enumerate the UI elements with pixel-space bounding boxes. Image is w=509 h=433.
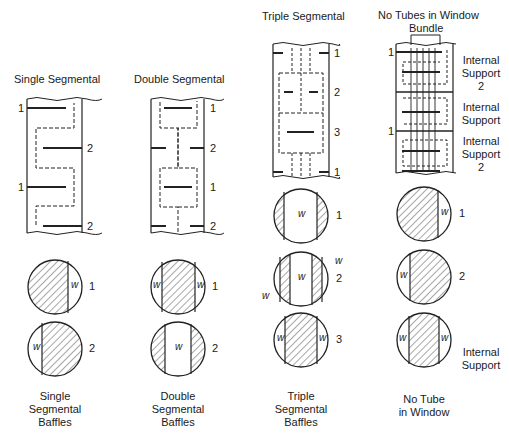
triple-circle-2-w-top: w	[335, 255, 342, 266]
double-label-1b: 1	[210, 181, 216, 193]
internal-support-2-bottom: Internal Support 2	[456, 135, 506, 174]
double-circle-1-label: 1	[212, 280, 218, 292]
single-label-2a: 2	[87, 142, 93, 154]
single-segmental-title: Single Segmental	[14, 73, 100, 86]
single-caption: Single Segmental Baffles	[20, 390, 90, 429]
no-tube-circle-1-w: w	[441, 206, 448, 217]
no-tubes-in-window-shell	[396, 35, 456, 175]
no-tubes-title: No Tubes in Window	[378, 9, 479, 22]
double-label-1a: 1	[210, 102, 216, 114]
single-label-2b: 2	[87, 220, 93, 232]
single-circle-1-w: w	[71, 279, 78, 290]
no-tubes-label-1a: 1	[388, 46, 394, 58]
bundle-label: Bundle	[409, 22, 443, 35]
no-tube-circle-3-label: Internal Support	[456, 346, 506, 372]
no-tube-circle-2-w: w	[400, 269, 407, 280]
triple-circle-2-w-bottom: w	[262, 290, 269, 301]
triple-label-3: 3	[334, 126, 340, 138]
triple-caption: Triple Segmental Baffles	[266, 390, 336, 429]
double-circle-1-w-right: w	[197, 279, 204, 290]
triple-circle-1-label: 1	[336, 209, 342, 221]
single-circle-1-label: 1	[89, 280, 95, 292]
triple-label-1b: 1	[334, 166, 340, 178]
single-label-1b: 1	[18, 181, 24, 193]
triple-circle-3-label: 3	[336, 333, 342, 345]
double-segmental-shell	[151, 98, 224, 235]
internal-support-mid: Internal Support	[456, 101, 506, 127]
triple-segmental-title: Triple Segmental	[262, 10, 345, 23]
internal-support-2-top: Internal Support 2	[456, 54, 506, 93]
triple-segmental-shell	[273, 43, 340, 179]
triple-circle-2-label: 2	[336, 272, 342, 284]
single-circle-2-label: 2	[89, 342, 95, 354]
triple-circle-1-w: w	[298, 208, 305, 219]
double-circle-2-label: 2	[212, 342, 218, 354]
double-label-2b: 2	[210, 220, 216, 232]
triple-circle-3-w-left: w	[277, 332, 284, 343]
double-caption: Double Segmental Baffles	[143, 390, 213, 429]
no-tube-circle-3-w-left: w	[399, 332, 406, 343]
no-tube-circle-1-label: 1	[459, 207, 465, 219]
no-tubes-label-1b: 1	[388, 125, 394, 137]
baffle-diagram	[0, 0, 509, 433]
double-circle-2-w: w	[175, 341, 182, 352]
no-tube-circle-3-w-right: w	[441, 332, 448, 343]
single-label-1a: 1	[18, 102, 24, 114]
single-segmental-shell	[27, 98, 102, 235]
triple-label-1a: 1	[334, 47, 340, 59]
single-circle-2-w: w	[33, 341, 40, 352]
no-tube-caption: No Tube in Window	[389, 393, 459, 419]
double-label-2a: 2	[210, 142, 216, 154]
double-circle-1-w-left: w	[153, 279, 160, 290]
triple-circle-3-w-right: w	[319, 332, 326, 343]
double-segmental-title: Double Segmental	[134, 73, 225, 86]
triple-circle-2-w-center: w	[298, 271, 305, 282]
no-tube-circle-2-label: 2	[459, 270, 465, 282]
triple-label-2: 2	[334, 86, 340, 98]
